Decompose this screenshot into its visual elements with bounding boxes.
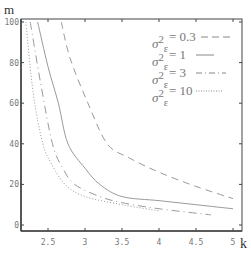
legend-value: = 1	[169, 46, 186, 64]
sigma-symbol: σ2ε	[152, 84, 166, 98]
y-axis-label: m	[4, 2, 14, 18]
curve-dotted	[26, 22, 159, 211]
sigma-symbol: σ2ε	[152, 66, 166, 80]
legend-value: = 3	[169, 64, 186, 82]
svg-text:20: 20	[9, 180, 19, 189]
sigma-symbol: σ2ε	[152, 48, 166, 62]
legend-value: = 10	[169, 82, 193, 100]
svg-text:80: 80	[9, 59, 19, 68]
svg-text:60: 60	[9, 99, 19, 108]
x-axis-label: k	[240, 236, 247, 252]
svg-text:4: 4	[157, 238, 162, 247]
dash-dot-line-swatch	[196, 70, 226, 76]
legend-item-1: σ2ε = 1	[152, 46, 231, 64]
svg-text:4.5: 4.5	[189, 238, 204, 247]
sigma-symbol: σ2ε	[152, 30, 166, 44]
svg-text:3: 3	[83, 238, 88, 247]
legend-value: = 0.3	[169, 28, 196, 46]
legend-item-10: σ2ε = 10	[152, 82, 231, 100]
svg-text:0: 0	[14, 221, 19, 230]
svg-text:40: 40	[9, 140, 19, 149]
svg-text:3.5: 3.5	[115, 238, 130, 247]
svg-text:5: 5	[231, 238, 236, 247]
dotted-line-swatch	[196, 88, 226, 94]
legend-item-3: σ2ε = 3	[152, 64, 231, 82]
solid-line-swatch	[196, 52, 226, 58]
legend-item-0.3: σ2ε = 0.3	[152, 28, 231, 46]
svg-text:100: 100	[5, 18, 20, 27]
legend: σ2ε = 0.3 σ2ε = 1 σ2ε = 3 σ2ε = 10	[152, 28, 231, 100]
svg-text:2.5: 2.5	[41, 238, 56, 247]
dashed-line-swatch	[201, 34, 231, 40]
